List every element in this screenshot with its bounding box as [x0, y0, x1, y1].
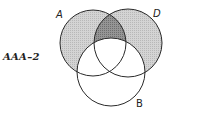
figure-caption: AAA–2 [3, 51, 40, 62]
shaded-regions [60, 9, 162, 77]
set-label-d: D [153, 9, 161, 19]
set-label-b: B [136, 99, 143, 109]
set-label-a: A [56, 10, 63, 20]
